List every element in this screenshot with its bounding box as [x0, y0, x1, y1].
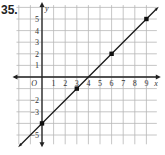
- y-axis-label: y: [44, 4, 49, 13]
- y-tick-label: −3: [30, 108, 39, 117]
- y-axis-arrow-down-icon: [40, 142, 45, 147]
- x-tick-label: 9: [144, 79, 148, 88]
- x-tick-label: 8: [133, 79, 137, 88]
- y-tick-label: −5: [30, 131, 39, 140]
- coordinate-plane: 12345678954321−2−3−5Oxy: [0, 0, 165, 155]
- data-point: [75, 86, 79, 90]
- x-tick-label: 1: [52, 79, 56, 88]
- data-point: [40, 121, 44, 125]
- x-axis-label: x: [153, 79, 158, 88]
- x-tick-label: 2: [63, 79, 67, 88]
- y-tick-label: 3: [35, 38, 39, 47]
- y-tick-label: −2: [30, 96, 39, 105]
- origin-label: O: [31, 79, 37, 88]
- x-tick-label: 5: [98, 79, 102, 88]
- data-point: [109, 52, 113, 56]
- y-tick-label: 4: [35, 27, 39, 36]
- x-tick-label: 4: [86, 79, 90, 88]
- y-tick-label: 5: [35, 15, 39, 24]
- y-axis-arrow-up-icon: [40, 2, 45, 7]
- data-point: [144, 17, 148, 21]
- x-tick-label: 6: [110, 79, 114, 88]
- y-tick-label: 2: [35, 50, 39, 59]
- x-axis-arrow-left-icon: [12, 75, 17, 80]
- x-tick-label: 7: [121, 79, 125, 88]
- y-tick-label: 1: [35, 61, 39, 70]
